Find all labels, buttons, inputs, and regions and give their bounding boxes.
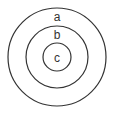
label-b: b — [54, 28, 61, 42]
label-a: a — [54, 10, 61, 24]
label-c: c — [54, 51, 60, 65]
concentric-circles-diagram: a b c — [0, 0, 115, 114]
